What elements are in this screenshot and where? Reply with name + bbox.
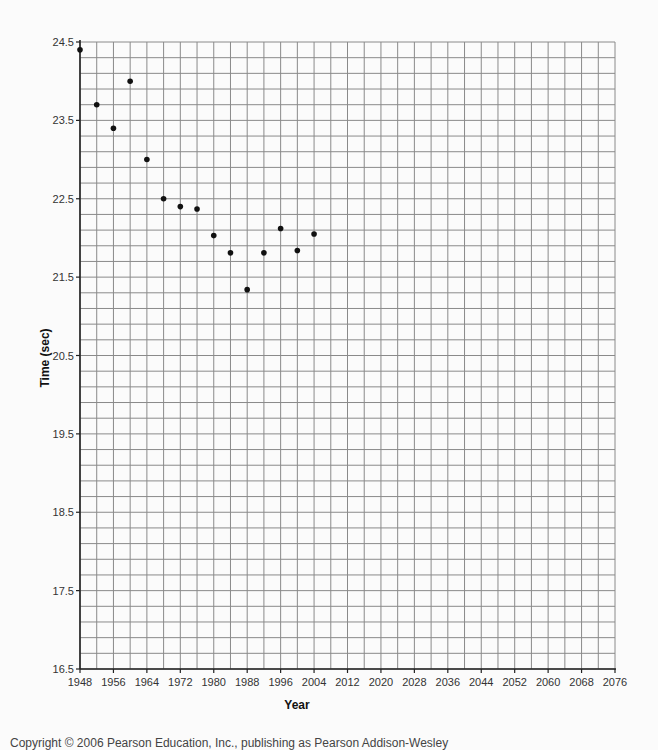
y-tick-label: 17.5 — [53, 585, 74, 597]
x-tick-label: 2076 — [603, 676, 627, 688]
x-axis-ticks: 1948195619641972198019881996200420122020… — [68, 669, 627, 688]
data-point — [178, 204, 184, 210]
y-tick-label: 23.5 — [53, 114, 74, 126]
x-tick-label: 1956 — [101, 676, 125, 688]
grid-lines — [80, 42, 615, 669]
x-tick-label: 2044 — [469, 676, 493, 688]
data-point — [211, 233, 217, 239]
y-tick-label: 20.5 — [53, 350, 74, 362]
x-tick-label: 1964 — [135, 676, 159, 688]
x-tick-label: 1972 — [168, 676, 192, 688]
y-tick-label: 18.5 — [53, 506, 74, 518]
x-tick-label: 2028 — [402, 676, 426, 688]
x-tick-label: 2020 — [369, 676, 393, 688]
x-tick-label: 2052 — [502, 676, 526, 688]
y-tick-label: 24.5 — [53, 36, 74, 48]
data-point — [127, 78, 133, 84]
data-point — [311, 231, 317, 237]
x-tick-label: 2060 — [536, 676, 560, 688]
data-point — [111, 125, 117, 131]
x-tick-label: 1996 — [268, 676, 292, 688]
data-point — [194, 206, 200, 212]
data-point — [278, 226, 284, 232]
y-tick-label: 16.5 — [53, 663, 74, 675]
x-tick-label: 2004 — [302, 676, 326, 688]
data-point — [244, 287, 250, 293]
x-tick-label: 2068 — [569, 676, 593, 688]
data-point — [228, 250, 234, 256]
data-point — [261, 250, 267, 256]
x-axis-title: Year — [284, 698, 310, 712]
data-point — [144, 157, 150, 163]
data-point — [295, 248, 301, 254]
x-tick-label: 1980 — [202, 676, 226, 688]
y-axis-title: Time (sec) — [38, 328, 52, 387]
y-tick-label: 22.5 — [53, 193, 74, 205]
data-point — [94, 102, 100, 108]
data-point — [161, 196, 167, 202]
x-tick-label: 2036 — [436, 676, 460, 688]
x-tick-label: 2012 — [335, 676, 359, 688]
x-tick-label: 1948 — [68, 676, 92, 688]
y-tick-label: 19.5 — [53, 428, 74, 440]
y-tick-label: 21.5 — [53, 271, 74, 283]
data-point — [77, 47, 83, 53]
x-tick-label: 1988 — [235, 676, 259, 688]
y-axis-ticks: 24.523.522.521.520.519.518.517.516.5 — [53, 36, 80, 675]
copyright-notice: Copyright © 2006 Pearson Education, Inc.… — [10, 736, 448, 750]
